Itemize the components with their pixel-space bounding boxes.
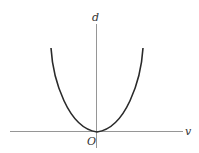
graph-figure: d v O (0, 0, 199, 153)
d-axis-label: d (92, 11, 99, 24)
v-axis-label: v (185, 125, 192, 138)
graph-canvas: d v O (0, 0, 199, 153)
origin-label: O (87, 135, 96, 148)
parabola-curve (51, 48, 143, 132)
